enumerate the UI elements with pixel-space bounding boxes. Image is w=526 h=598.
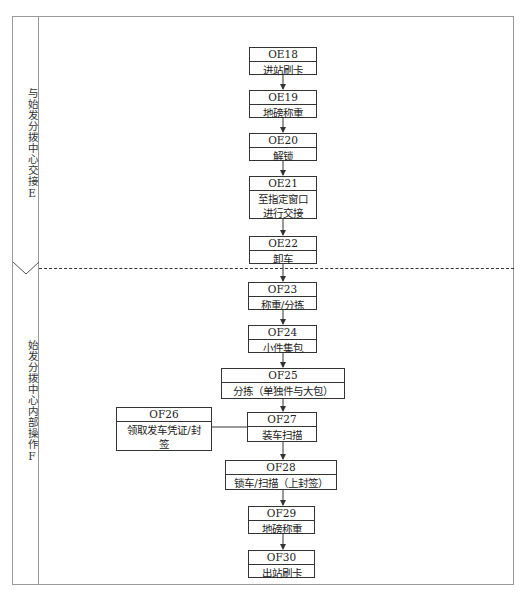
step-oe20: OE20 解锁	[249, 133, 317, 161]
step-of24: OF24 小件集包	[248, 325, 317, 353]
step-of23: OF23 称重/分拣	[248, 282, 317, 310]
step-oe21: OE21 至指定窗口进行交接	[249, 176, 317, 219]
step-oe22: OE22 卸车	[249, 236, 317, 264]
step-of28: OF28 锁车/扫描（上封签）	[225, 460, 337, 490]
step-oe18: OE18 进站刷卡	[249, 47, 317, 75]
step-oe19: OE19 地磅称重	[249, 90, 317, 118]
step-of26: OF26 领取发车凭证/封签	[116, 407, 212, 451]
step-of25: OF25 分拣（单独件与大包）	[221, 368, 345, 399]
step-of27: OF27 装车扫描	[247, 412, 317, 442]
step-of30: OF30 出站刷卡	[248, 550, 315, 578]
step-of29: OF29 地磅称重	[248, 506, 315, 534]
